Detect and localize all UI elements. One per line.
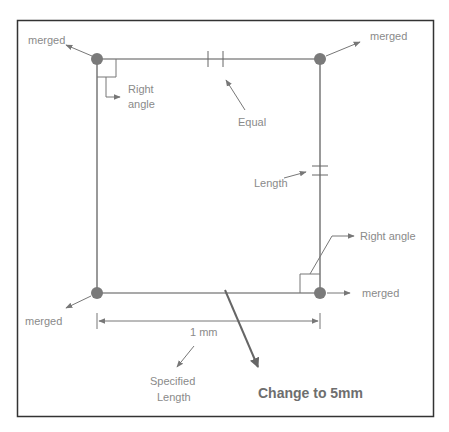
arrow-right-angle-br bbox=[310, 236, 354, 274]
label-length: Length bbox=[254, 177, 288, 189]
arrow-change bbox=[225, 290, 258, 367]
label-dimension: 1 mm bbox=[190, 326, 218, 338]
arrow-merged-bl bbox=[66, 296, 91, 308]
label-change-to-5mm: Change to 5mm bbox=[258, 385, 363, 401]
node-bottom-left bbox=[91, 287, 103, 299]
label-right-angle-tl-2: angle bbox=[128, 98, 155, 110]
node-top-left bbox=[91, 53, 103, 65]
label-right-angle-tl-1: Right bbox=[128, 83, 154, 95]
label-specified-2: Length bbox=[157, 391, 191, 403]
label-equal: Equal bbox=[238, 116, 266, 128]
arrow-equal bbox=[226, 80, 245, 110]
label-merged-tl: merged bbox=[28, 34, 65, 46]
label-merged-tr: merged bbox=[370, 30, 407, 42]
arrow-right-angle-tl bbox=[106, 77, 120, 97]
arrow-merged-tr bbox=[326, 42, 360, 56]
outer-frame bbox=[18, 21, 434, 417]
label-merged-br: merged bbox=[362, 287, 399, 299]
arrow-specified-length bbox=[177, 346, 194, 367]
constraint-diagram: merged merged merged merged Right angle … bbox=[0, 0, 449, 432]
label-specified-1: Specified bbox=[150, 375, 195, 387]
label-right-angle-br: Right angle bbox=[360, 230, 416, 242]
node-top-right bbox=[314, 53, 326, 65]
arrow-merged-tl bbox=[66, 45, 92, 56]
node-bottom-right bbox=[314, 287, 326, 299]
label-merged-bl: merged bbox=[25, 315, 62, 327]
